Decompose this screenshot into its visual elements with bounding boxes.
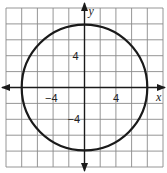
- y-tick-label-neg4: −4: [68, 113, 81, 125]
- y-axis-up-arrow-icon: [81, 2, 88, 11]
- x-tick-label-pos4: 4: [113, 92, 119, 104]
- coordinate-plane: x y −4 4 4 −4: [0, 0, 167, 173]
- y-axis-down-arrow-icon: [81, 163, 88, 172]
- x-tick-label-neg4: −4: [45, 92, 58, 104]
- axes: [1, 2, 166, 172]
- y-axis-label: y: [88, 4, 95, 18]
- y-tick-label-pos4: 4: [73, 50, 79, 62]
- x-axis-left-arrow-icon: [1, 84, 10, 91]
- x-axis-label: x: [155, 90, 162, 104]
